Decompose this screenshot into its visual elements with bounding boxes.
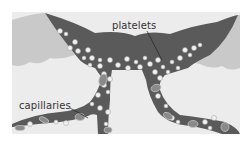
platelets-label: platelets (112, 20, 156, 31)
capillaries-label: capillaries (19, 100, 71, 111)
